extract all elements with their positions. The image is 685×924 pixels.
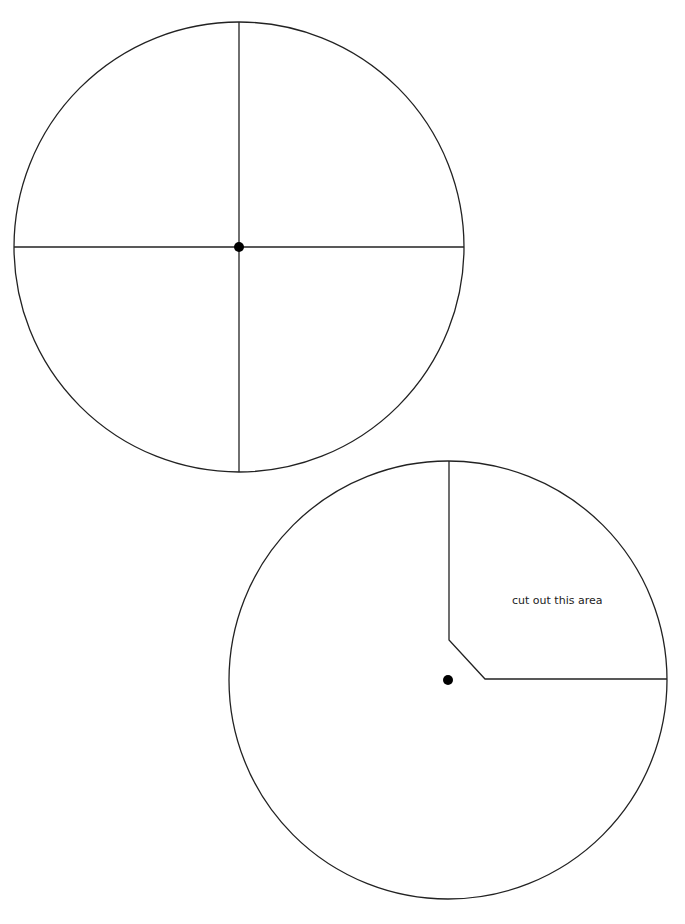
cutout-label: cut out this area <box>512 594 602 607</box>
bottom-disc: cut out this area <box>229 461 667 899</box>
top-disc <box>14 22 464 472</box>
diagram-canvas: cut out this area <box>0 0 685 924</box>
bottom-disc-cutout-boundary <box>449 461 667 679</box>
top-disc-center-pin <box>234 242 244 252</box>
bottom-disc-center-pin <box>443 675 453 685</box>
